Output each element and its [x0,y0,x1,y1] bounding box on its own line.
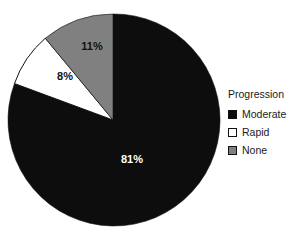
pie-chart-svg: 81% 8% 11% [7,12,220,228]
legend-item-rapid[interactable]: Rapid [228,124,299,140]
clipped-caption-remnant: · · [0,0,299,6]
legend-swatch-none-icon [228,146,237,155]
legend: Progression Moderate Rapid None [228,88,299,160]
legend-item-none[interactable]: None [228,142,299,158]
pie-label-rapid: 8% [57,70,73,82]
pie-label-none: 11% [81,40,103,52]
pie-chart-plot-area: 81% 8% 11% [7,12,220,228]
legend-title: Progression [228,88,299,101]
legend-item-moderate[interactable]: Moderate [228,106,299,122]
pie-label-moderate: 81% [121,153,143,165]
legend-label-none: None [242,144,267,156]
legend-label-moderate: Moderate [242,108,286,120]
legend-swatch-moderate-icon [228,110,237,119]
legend-swatch-rapid-icon [228,128,237,137]
pie-chart-figure: · · 81% 8% 11% Progression Moderate Rapi… [0,0,299,232]
legend-label-rapid: Rapid [242,126,269,138]
